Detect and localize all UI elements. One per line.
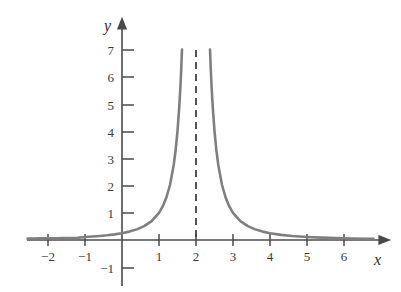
x-tick-label--2: −2 bbox=[41, 250, 55, 263]
y-tick-label--1: −1 bbox=[90, 262, 114, 275]
x-axis-label: x bbox=[374, 252, 381, 268]
y-tick-label-3: 3 bbox=[96, 153, 114, 166]
curve-right-branch bbox=[210, 50, 374, 239]
y-tick-label-6: 6 bbox=[96, 71, 114, 84]
y-tick-label-4: 4 bbox=[96, 126, 114, 139]
y-axis-ticks bbox=[122, 50, 134, 268]
x-tick-label-4: 4 bbox=[267, 250, 274, 263]
function-graph-figure: −2 −1 1 2 3 4 5 6 7 6 5 4 3 2 1 −1 y x bbox=[0, 0, 401, 292]
x-tick-label-5: 5 bbox=[304, 250, 311, 263]
y-axis-label: y bbox=[104, 18, 111, 34]
y-tick-label-1: 1 bbox=[96, 207, 114, 220]
y-tick-label-5: 5 bbox=[96, 99, 114, 112]
y-tick-label-2: 2 bbox=[96, 180, 114, 193]
x-tick-label-2: 2 bbox=[193, 250, 200, 263]
x-tick-label-1: 1 bbox=[156, 250, 163, 263]
y-tick-label-7: 7 bbox=[96, 44, 114, 57]
x-tick-label-6: 6 bbox=[341, 250, 348, 263]
x-tick-label-3: 3 bbox=[230, 250, 237, 263]
